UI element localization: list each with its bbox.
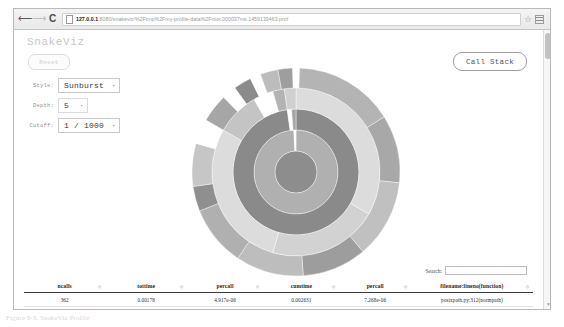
table-row[interactable]: 362 0.00178 4.917e-06 0.002631 7.268e-06… xyxy=(24,293,533,307)
column-header-percall[interactable]: percall ◇ xyxy=(187,283,263,289)
chevron-down-icon: ▾ xyxy=(112,124,115,128)
figure-container: ⟵ ⟶ C 127.0.0.1 :8080/snakeviz/%2Ftmp%2F… xyxy=(0,0,564,327)
style-select[interactable]: Sunburst ▾ xyxy=(58,78,120,93)
bookmark-star-icon[interactable]: ☆ xyxy=(524,15,532,24)
browser-window: ⟵ ⟶ C 127.0.0.1 :8080/snakeviz/%2Ftmp%2F… xyxy=(13,8,551,310)
column-header-cumtime[interactable]: cumtime ◇ xyxy=(263,283,339,289)
snakeviz-app: SnakeViz Reset Style: Sunburst ▾ Depth: … xyxy=(14,30,543,310)
table-header-row: ncalls ◇ tottime ◇ percall ◇ cumtime xyxy=(24,279,533,293)
sunburst-svg[interactable] xyxy=(192,68,400,276)
scroll-down-arrow-icon[interactable]: ▼ xyxy=(545,301,551,308)
chevron-down-icon: ▾ xyxy=(80,104,83,108)
style-value: Sunburst xyxy=(64,81,104,90)
column-header-percall2-label: percall xyxy=(367,283,384,289)
call-stack-button[interactable]: Call Stack xyxy=(453,52,527,71)
depth-select[interactable]: 5 ▾ xyxy=(58,98,88,113)
profile-table: ncalls ◇ tottime ◇ percall ◇ cumtime xyxy=(24,279,533,307)
column-header-tottime-label: tottime xyxy=(137,283,155,289)
column-header-tottime[interactable]: tottime ◇ xyxy=(105,283,186,289)
chevron-down-icon: ▾ xyxy=(112,84,115,88)
cell-cumtime: 0.002631 xyxy=(263,297,339,303)
column-header-cumtime-label: cumtime xyxy=(291,283,313,289)
depth-label: Depth: xyxy=(28,102,54,109)
column-header-ncalls-label: ncalls xyxy=(58,283,72,289)
style-label: Style: xyxy=(28,82,54,89)
search-input[interactable] xyxy=(445,266,527,275)
cutoff-value: 1 / 1000 xyxy=(64,121,104,130)
column-header-filename-label: filename:lineno(function) xyxy=(440,283,503,289)
control-row-depth: Depth: 5 ▾ xyxy=(28,98,88,113)
page-info-icon[interactable] xyxy=(66,15,73,24)
url-host: 127.0.0.1 xyxy=(76,16,98,22)
column-header-percall2[interactable]: percall ◇ xyxy=(340,283,411,289)
sort-icon: ◇ xyxy=(98,283,101,288)
sort-icon: ◇ xyxy=(404,283,407,288)
reset-button[interactable]: Reset xyxy=(28,54,70,70)
sort-icon: ◇ xyxy=(526,283,529,288)
reload-icon[interactable]: C xyxy=(46,13,59,26)
search-control: Search: xyxy=(426,266,528,275)
cell-percall: 4.917e-06 xyxy=(187,297,263,303)
column-header-percall-label: percall xyxy=(217,283,234,289)
forward-arrow-icon[interactable]: ⟶ xyxy=(32,13,45,26)
depth-value: 5 xyxy=(64,101,69,110)
address-bar[interactable]: 127.0.0.1 :8080/snakeviz/%2Ftmp%2Fmy-pro… xyxy=(62,13,521,26)
hamburger-menu-icon[interactable] xyxy=(535,15,544,24)
sunburst-chart[interactable] xyxy=(192,68,400,276)
sort-icon: ◇ xyxy=(332,283,335,288)
sort-icon: ◇ xyxy=(256,283,259,288)
scrollbar-thumb[interactable] xyxy=(545,33,551,59)
column-header-ncalls[interactable]: ncalls ◇ xyxy=(24,283,105,289)
page-scrollbar[interactable]: ▼ xyxy=(543,30,551,310)
cell-filename: posixpath.py:312(normpath) xyxy=(411,297,533,303)
cell-percall2: 7.268e-06 xyxy=(340,297,411,303)
search-label: Search: xyxy=(426,268,443,274)
control-row-style: Style: Sunburst ▾ xyxy=(28,78,120,93)
back-arrow-icon[interactable]: ⟵ xyxy=(18,13,31,26)
sunburst-slice[interactable] xyxy=(275,151,317,193)
page-viewport: SnakeViz Reset Style: Sunburst ▾ Depth: … xyxy=(14,30,551,310)
control-row-cutoff: Cutoff: 1 / 1000 ▾ xyxy=(28,118,120,133)
figure-caption: Figure 9-3. SnakeViz Profile xyxy=(6,314,89,322)
page-title: SnakeViz xyxy=(27,36,85,48)
url-path: :8080/snakeviz/%2Ftmp%2Fmy-profile-data%… xyxy=(98,16,288,22)
cutoff-select[interactable]: 1 / 1000 ▾ xyxy=(58,118,120,133)
browser-toolbar: ⟵ ⟶ C 127.0.0.1 :8080/snakeviz/%2Ftmp%2F… xyxy=(14,9,550,30)
cutoff-label: Cutoff: xyxy=(28,122,54,129)
column-header-filename[interactable]: filename:lineno(function) ◇ xyxy=(411,283,533,289)
cell-ncalls: 362 xyxy=(24,297,105,303)
toolbar-right-group: ☆ xyxy=(524,15,546,24)
sort-icon: ◇ xyxy=(180,283,183,288)
sunburst-slice[interactable] xyxy=(192,143,215,186)
cell-tottime: 0.00178 xyxy=(105,297,186,303)
